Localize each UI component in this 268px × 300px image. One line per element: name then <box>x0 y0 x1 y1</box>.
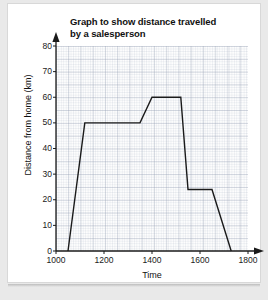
chart-paper: Graph to show distance travelled by a sa… <box>8 4 260 282</box>
axis-tick-marks <box>53 46 248 254</box>
paper-shadow <box>8 284 260 287</box>
screenshot-root: Graph to show distance travelled by a sa… <box>0 0 268 300</box>
axis-lines <box>52 32 264 255</box>
chart-axes-and-series <box>8 4 268 300</box>
distance-series-line <box>68 97 231 251</box>
